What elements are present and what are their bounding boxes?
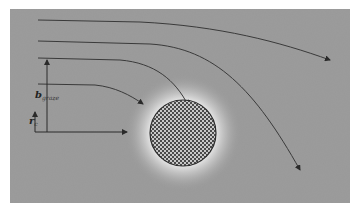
grazing-impact-diagram: bgraze rc	[0, 0, 357, 212]
obstacle-circle	[150, 100, 216, 166]
